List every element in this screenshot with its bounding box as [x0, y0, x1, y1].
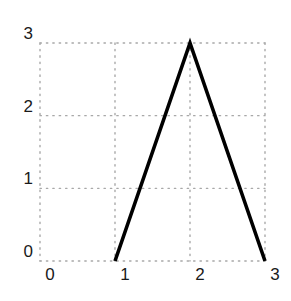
y-tick-label: 0 [24, 242, 33, 261]
x-tick-label: 1 [120, 265, 129, 284]
line-chart: 0123 0123 [0, 0, 291, 301]
x-tick-label: 2 [195, 265, 204, 284]
x-tick-label: 0 [45, 265, 54, 284]
x-tick-label: 3 [270, 265, 279, 284]
y-tick-label: 1 [24, 169, 33, 188]
y-tick-label: 2 [24, 97, 33, 116]
y-tick-label: 3 [24, 24, 33, 43]
x-axis-ticks: 0123 [45, 265, 279, 284]
y-axis-ticks: 0123 [24, 24, 33, 261]
